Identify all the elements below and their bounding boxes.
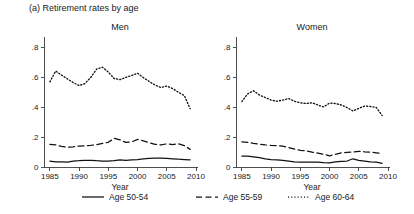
y-tick-label-women-0: 0 (226, 163, 231, 172)
y-tick-label-women-2: .4 (224, 103, 231, 112)
x-tick-label-women-0: 1985 (233, 172, 251, 181)
x-tick-label-women-3: 2000 (321, 172, 339, 181)
panel-women: 0.2.4.6.8198519901995200020052010Year (224, 37, 398, 192)
x-tick-label-men-2: 1995 (99, 172, 117, 181)
legend-label-2: Age 60-64 (315, 192, 354, 202)
figure-title: (a) Retirement rates by age (29, 3, 139, 13)
x-axis-title-women: Year (303, 182, 320, 192)
series-women-age-60-64 (242, 91, 382, 116)
legend-label-0: Age 50-54 (109, 192, 148, 202)
x-tick-label-men-1: 1990 (70, 172, 88, 181)
x-tick-label-women-2: 1995 (291, 172, 309, 181)
series-men-age-60-64 (50, 67, 190, 109)
series-women-age-50-54 (242, 156, 382, 163)
panel-title-men: Men (60, 22, 180, 32)
series-men-age-55-59 (50, 138, 190, 149)
y-tick-label-women-4: .8 (224, 43, 231, 52)
series-women-age-55-59 (242, 142, 382, 156)
panel-men: 0.2.4.6.8198519901995200020052010Year (32, 37, 206, 192)
x-tick-label-men-3: 2000 (129, 172, 147, 181)
series-men-age-50-54 (50, 158, 190, 162)
axis-frame-men (44, 37, 198, 167)
x-tick-label-women-4: 2005 (350, 172, 368, 181)
axis-frame-women (236, 37, 390, 167)
x-tick-label-men-0: 1985 (41, 172, 59, 181)
x-tick-label-men-4: 2005 (158, 172, 176, 181)
x-tick-label-women-5: 2010 (379, 172, 397, 181)
x-tick-label-women-1: 1990 (262, 172, 280, 181)
x-axis-title-men: Year (111, 182, 128, 192)
y-tick-label-men-2: .4 (32, 103, 39, 112)
chart-legend: Age 50-54Age 55-59Age 60-64 (82, 192, 354, 202)
x-tick-label-men-5: 2010 (187, 172, 205, 181)
y-tick-label-men-0: 0 (34, 163, 39, 172)
chart-canvas: 0.2.4.6.8198519901995200020052010Year 0.… (0, 0, 414, 214)
y-tick-label-men-1: .2 (32, 133, 39, 142)
panel-title-women: Women (252, 22, 372, 32)
y-tick-label-women-1: .2 (224, 133, 231, 142)
legend-label-1: Age 55-59 (223, 192, 262, 202)
y-tick-label-men-3: .6 (32, 73, 39, 82)
y-tick-label-men-4: .8 (32, 43, 39, 52)
y-tick-label-women-3: .6 (224, 73, 231, 82)
retirement-rates-figure: (a) Retirement rates by age Men Women 0.… (0, 0, 414, 214)
